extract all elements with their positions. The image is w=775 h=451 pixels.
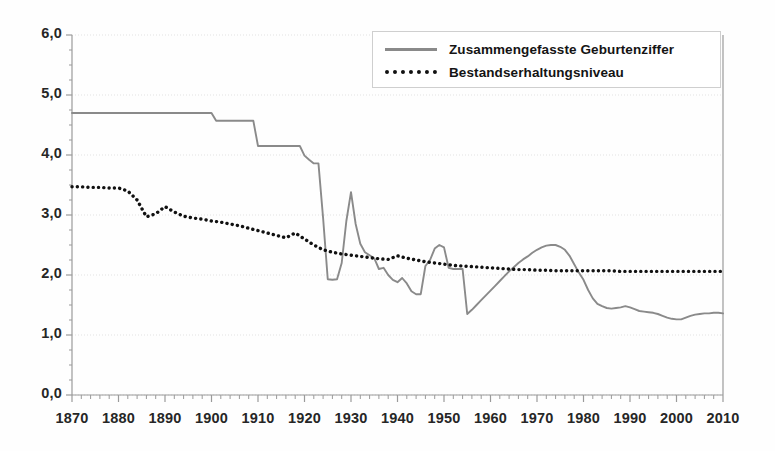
legend-item-replacement: Bestandserhaltungsniveau (383, 63, 624, 81)
y-axis-tick-label: 1,0 (14, 325, 62, 341)
legend-label-tfr: Zusammengefasste Geburtenziffer (449, 42, 674, 57)
y-axis-tick-label: 5,0 (14, 85, 62, 101)
series-line-replacement (72, 187, 723, 272)
y-axis-tick-label: 6,0 (14, 25, 62, 41)
y-axis-tick-label: 3,0 (14, 205, 62, 221)
x-axis-tick-label: 2010 (693, 410, 753, 426)
legend-key-dotted-line-icon (383, 66, 439, 78)
y-axis-tick-label: 0,0 (14, 385, 62, 401)
series-line-tfr (72, 113, 723, 319)
y-axis-tick-label: 4,0 (14, 145, 62, 161)
y-axis-tick-label: 2,0 (14, 265, 62, 281)
chart-legend: Zusammengefasste Geburtenziffer Bestands… (372, 31, 721, 88)
legend-label-replacement: Bestandserhaltungsniveau (449, 65, 624, 80)
legend-item-tfr: Zusammengefasste Geburtenziffer (383, 40, 674, 58)
legend-key-solid-line-icon (383, 43, 439, 55)
fertility-rate-chart: Zusammengefasste Geburtenziffer Bestands… (0, 0, 775, 451)
